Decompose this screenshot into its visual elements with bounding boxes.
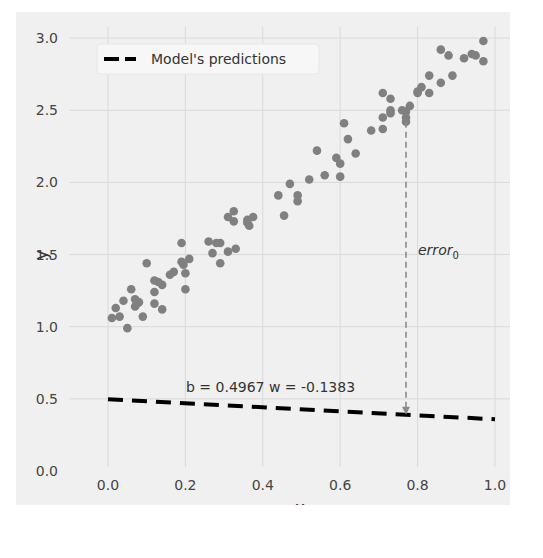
x-tick-labels: 0.00.20.40.60.81.0 [97, 477, 506, 493]
data-point [479, 57, 488, 66]
data-point [386, 109, 395, 118]
data-point [378, 113, 387, 122]
error-arrow [402, 122, 410, 415]
data-point [150, 299, 159, 308]
data-point [135, 298, 144, 307]
data-point [479, 37, 488, 46]
data-point [274, 191, 283, 200]
x-axis-label: x [295, 498, 305, 505]
data-point [216, 239, 225, 248]
data-point [386, 94, 395, 103]
data-point [293, 197, 302, 206]
data-point [115, 312, 124, 321]
data-point [123, 324, 132, 333]
data-point [229, 207, 238, 216]
data-point [185, 255, 194, 264]
data-point [208, 249, 217, 258]
x-tick-label: 0.6 [329, 477, 351, 493]
data-point [142, 259, 151, 268]
data-point [169, 268, 178, 277]
y-tick-label: 1.0 [36, 319, 58, 335]
data-point [336, 159, 345, 168]
chart-figure: 0.00.51.01.52.02.53.0 0.00.20.40.60.81.0… [16, 12, 510, 505]
data-point [177, 239, 186, 248]
data-point [378, 125, 387, 134]
error-annotation: error0 [418, 242, 459, 261]
x-tick-label: 0.0 [97, 477, 119, 493]
data-point [378, 89, 387, 98]
data-point [336, 172, 345, 181]
data-point [229, 217, 238, 226]
params-annotation: b = 0.4967 w = -0.1383 [186, 379, 355, 395]
data-point [305, 175, 314, 184]
data-points [108, 37, 488, 333]
data-point [231, 244, 240, 253]
legend-label: Model's predictions [151, 51, 286, 67]
legend: Model's predictions [97, 44, 319, 74]
prediction-line [108, 399, 495, 419]
data-point [119, 296, 128, 305]
y-tick-label: 3.0 [36, 30, 58, 46]
data-point [158, 281, 167, 290]
data-point [320, 171, 329, 180]
data-point [448, 71, 457, 80]
data-point [406, 102, 415, 111]
data-point [437, 45, 446, 54]
data-point [351, 149, 360, 158]
data-point [127, 285, 136, 294]
data-point [158, 305, 167, 314]
y-tick-label: 0.0 [36, 463, 58, 479]
data-point [243, 219, 252, 228]
data-point [425, 89, 434, 98]
error-annotation-main: error [418, 242, 454, 258]
data-point [280, 211, 289, 220]
data-point [313, 146, 322, 155]
data-point [437, 79, 446, 88]
data-point [181, 285, 190, 294]
data-point [425, 71, 434, 80]
data-point [367, 126, 376, 135]
data-point [108, 314, 117, 323]
x-tick-label: 0.2 [174, 477, 196, 493]
x-tick-label: 1.0 [484, 477, 506, 493]
data-point [150, 288, 159, 297]
data-point [460, 54, 469, 63]
data-point [286, 180, 295, 189]
data-point [224, 247, 233, 256]
x-tick-label: 0.8 [406, 477, 428, 493]
data-point [139, 312, 148, 321]
data-point [181, 269, 190, 278]
data-point [204, 237, 213, 246]
x-tick-label: 0.4 [252, 477, 274, 493]
data-point [216, 259, 225, 268]
data-point [111, 304, 120, 313]
data-point [344, 135, 353, 144]
scatter-chart: 0.00.51.01.52.02.53.0 0.00.20.40.60.81.0… [16, 12, 510, 505]
data-point [340, 119, 349, 128]
y-tick-label: 2.5 [36, 102, 58, 118]
data-point [444, 51, 453, 60]
data-point [413, 89, 422, 98]
data-point [471, 51, 480, 60]
y-tick-label: 2.0 [36, 174, 58, 190]
y-tick-label: 0.5 [36, 391, 58, 407]
error-annotation-subscript: 0 [452, 250, 458, 261]
y-axis-label: y [31, 250, 51, 260]
